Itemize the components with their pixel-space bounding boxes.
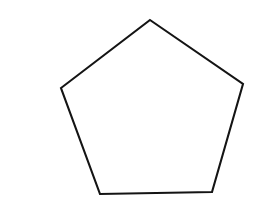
drawing-canvas (0, 0, 258, 211)
pentagon-svg (0, 0, 258, 211)
